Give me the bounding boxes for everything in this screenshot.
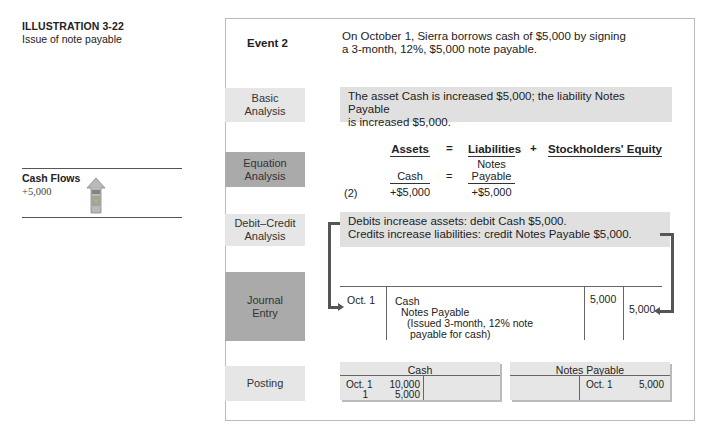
liab-change: +$5,000 [468,186,515,198]
illustration-title: ILLUSTRATION 3-22 [22,20,124,32]
label-line: Entry [247,307,283,320]
equation-header-plus: + [530,142,537,154]
journal-top-rule [340,286,662,287]
journal-entry-label: JournalEntry [225,272,305,341]
label-line: Debit–Credit [234,217,295,230]
journal-date: Oct. 1 [347,295,375,306]
equation-analysis-label: EquationAnalysis [225,152,305,187]
debit-credit-text: Debits increase assets: debit Cash $5,00… [340,212,670,247]
equation-header-liabilities: Liabilities [468,143,515,157]
assets-account: Cash [390,170,430,184]
event-label: Event 2 [247,37,288,49]
equation-header-equals: = [446,142,453,154]
basic-analysis-label: BasicAnalysis [225,88,305,122]
cash-debit-date-2: 1 [346,390,368,400]
basic-analysis-line-2: is increased $5,000. [348,116,664,129]
label-line: Analysis [245,105,286,118]
label-line: Analysis [243,170,286,183]
posting-label: Posting [225,366,305,401]
equation-header-assets: Assets [390,143,430,157]
debit-credit-analysis-label: Debit–CreditAnalysis [225,214,305,246]
cash-flows-value: +5,000 [22,186,52,197]
journal-col-divider-2 [584,287,585,340]
label-line: Basic [245,92,286,105]
journal-col-divider-3 [623,287,624,340]
label-line: Analysis [234,230,295,243]
right-connector-bottom [660,310,674,313]
debit-credit-line-1: Debits increase assets: debit Cash $5,00… [348,215,662,228]
label-line: Posting [247,377,284,390]
debit-credit-line-2: Credits increase liabilities: credit Not… [348,228,662,241]
cash-flows-top-rule [22,168,182,169]
equation-row-label: (2) [344,187,357,199]
basic-analysis-line-1: The asset Cash is increased $5,000; the … [348,90,664,116]
event-description: On October 1, Sierra borrows cash of $5,… [342,30,672,56]
equation-equals: = [446,170,452,182]
journal-debit-amount: 5,000 [590,294,616,305]
journal-explanation-2: payable for cash) [410,329,491,340]
assets-change: +$5,000 [390,186,430,198]
cash-debit-amount-2: 5,000 [388,390,420,400]
cash-flows-bottom-rule [22,217,182,218]
left-connector-vertical [328,222,331,309]
notes-payable-credit-amount: 5,000 [628,380,664,390]
notes-payable-t-account-vrule [579,375,580,400]
notes-payable-t-account-hrule [510,375,670,376]
journal-credit-amount: 5,000 [629,304,655,315]
notes-payable-credit-date: Oct. 1 [586,380,613,390]
arrow-right-icon [338,303,344,311]
cash-t-account-vrule [423,375,424,400]
liab-account-line-2: Payable [468,170,515,184]
label-line: Equation [243,157,286,170]
cash-debit-date-1: Oct. 1 [346,380,373,390]
cash-flows-title: Cash Flows [22,172,80,184]
cash-t-account-hrule [340,375,500,376]
liab-account-line-1: Notes [468,158,515,170]
basic-analysis-text: The asset Cash is increased $5,000; the … [340,87,672,122]
label-line: Journal [247,294,283,307]
cash-increase-arrow-icon [86,178,106,214]
journal-col-divider-1 [386,287,387,340]
illustration-subtitle: Issue of note payable [22,33,122,45]
right-connector-vertical [671,233,674,313]
event-line-2: a 3-month, 12%, $5,000 note payable. [342,43,672,56]
event-line-1: On October 1, Sierra borrows cash of $5,… [342,30,672,43]
equation-header-equity: Stockholders' Equity [548,143,662,157]
